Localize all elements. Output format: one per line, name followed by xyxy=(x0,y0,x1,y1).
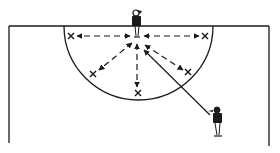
court-lines xyxy=(9,26,269,146)
x-markers xyxy=(68,33,208,96)
drill-diagram xyxy=(0,0,280,153)
x-top-right xyxy=(202,33,208,39)
player-leg-left xyxy=(135,26,136,36)
player-body xyxy=(213,113,222,123)
pass-outside-to-centre xyxy=(144,50,210,115)
x-mid-left xyxy=(90,71,96,77)
player-body xyxy=(132,16,141,26)
pass-mid-left xyxy=(99,43,132,70)
player-hair xyxy=(208,110,213,112)
x-bottom xyxy=(135,90,141,96)
player-head xyxy=(214,107,220,113)
player-leg-left xyxy=(215,123,217,135)
x-top-left xyxy=(68,33,74,39)
x-mid-right xyxy=(185,69,191,75)
player-leg-right xyxy=(138,26,139,36)
pass-mid-right xyxy=(145,45,183,70)
outside-player xyxy=(208,107,222,136)
pass-lines xyxy=(77,36,210,115)
centre-player xyxy=(132,10,142,37)
player-leg-right xyxy=(219,123,220,135)
